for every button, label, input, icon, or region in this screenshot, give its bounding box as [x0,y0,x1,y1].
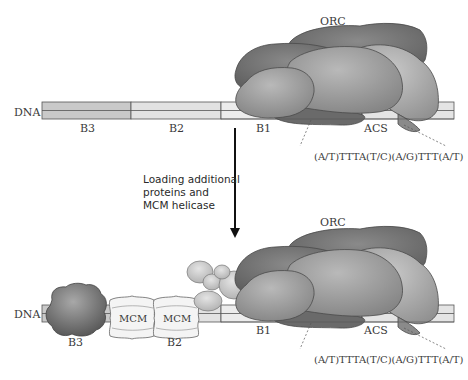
dna-label-top: DNA [14,106,41,119]
b2-label-top: B2 [169,122,184,135]
mcm-label-1: MCM [119,313,147,324]
b3-label-bottom: B3 [68,336,83,349]
b3-label-top: B3 [80,122,95,135]
mcm-helicase[interactable]: MCM MCM [109,296,199,339]
mcm-label-2: MCM [163,313,191,324]
acs-label-top: ACS [363,122,388,135]
transition: Loading additional proteins and MCM heli… [143,128,240,238]
top-panel: DNA ORC B3 B2 B1 ACS (A/T) [14,15,464,162]
dna-label-bottom: DNA [14,308,41,321]
bottom-panel: DNA MCM MCM [14,216,464,365]
orc-complex-bottom [235,226,438,334]
b2-label-bottom: B2 [167,336,182,349]
caption-line-3: MCM helicase [143,199,215,211]
origin-loading-diagram: DNA ORC B3 B2 B1 ACS (A/T) [0,0,468,380]
acs-label-bottom: ACS [363,324,388,337]
acs-sequence-top: (A/T)TTTA(T/C)(A/G)TTT(A/T) [314,151,464,162]
b1-label-bottom: B1 [256,324,271,337]
orc-complex-top [235,23,438,131]
b1-label-top: B1 [256,122,271,135]
down-arrow-icon [230,228,240,238]
orc-label-top: ORC [320,15,346,28]
acs-sequence-bottom: (A/T)TTTA(T/C)(A/G)TTT(A/T) [314,354,464,365]
orc-label-bottom: ORC [320,216,346,229]
caption-line-1: Loading additional [143,173,240,185]
b3-binding-protein [46,283,106,336]
caption-line-2: proteins and [143,186,209,198]
